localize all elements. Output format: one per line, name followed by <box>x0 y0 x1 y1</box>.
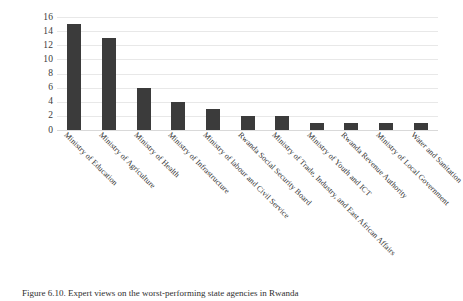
bar <box>102 38 116 130</box>
y-tick-label: 14 <box>0 27 53 37</box>
x-axis-labels: Ministry of EducationMinistry of Agricul… <box>0 131 451 286</box>
bar <box>310 123 324 130</box>
y-tick-label: 8 <box>0 69 53 79</box>
y-tick-label: 12 <box>0 41 53 51</box>
bar <box>275 116 289 130</box>
y-tick-label: 10 <box>0 55 53 65</box>
y-tick-label: 2 <box>0 111 53 121</box>
bar <box>344 123 358 130</box>
bar <box>414 123 428 130</box>
bar <box>241 116 255 130</box>
y-tick-label: 6 <box>0 83 53 93</box>
bar <box>67 24 81 130</box>
y-axis: 0246810121416 <box>0 17 53 130</box>
figure-caption: Figure 6.10. Expert views on the worst-p… <box>22 288 442 299</box>
x-axis-label: Ministry of Local Government <box>374 131 450 207</box>
bar-series <box>57 17 438 130</box>
plot-area <box>57 17 438 130</box>
bar <box>379 123 393 130</box>
bar <box>206 109 220 130</box>
x-axis-label: Ministry of Trade, Industry, and East Af… <box>270 131 396 257</box>
bar-chart: 0246810121416 Ministry of EducationMinis… <box>0 0 451 286</box>
y-tick-label: 4 <box>0 97 53 107</box>
x-axis-label: Rwanda Revenue Authority <box>340 131 409 200</box>
x-axis-label: Ministry of Infrastructure <box>167 131 231 195</box>
y-tick-label: 16 <box>0 13 53 23</box>
bar <box>171 102 185 130</box>
bar <box>137 88 151 130</box>
x-axis-label: Ministry of Youth and ICT <box>305 131 372 198</box>
